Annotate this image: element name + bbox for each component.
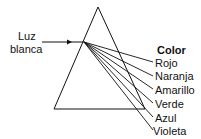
color-label-rojo: Rojo (155, 57, 178, 69)
color-label-azul: Azul (155, 112, 176, 124)
color-label-amarillo: Amarillo (155, 84, 195, 96)
input-label-line1: Luz (18, 30, 36, 42)
color-label-naranja: Naranja (155, 70, 194, 82)
arrowhead-icon (67, 40, 72, 45)
input-label-line2: blanca (10, 43, 42, 55)
dispersed-rays (84, 42, 153, 130)
color-label-verde: Verde (155, 98, 184, 110)
legend-title: Color (157, 44, 186, 56)
color-label-violeta: Violeta (153, 125, 186, 137)
